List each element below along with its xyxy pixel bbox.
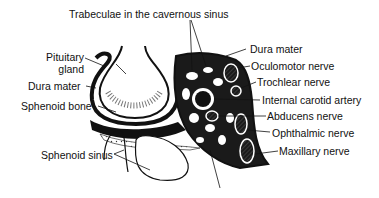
label-trabeculae: Trabeculae in the cavernous sinus — [69, 8, 229, 20]
label-pituitary-2: gland — [20, 63, 84, 75]
maxillary-nerve — [240, 139, 254, 163]
label-carotid-artery: Internal carotid artery — [262, 94, 361, 106]
label-oculomotor-nerve: Oculomotor nerve — [251, 60, 334, 72]
label-maxillary-nerve: Maxillary nerve — [279, 145, 350, 157]
label-trochlear-nerve: Trochlear nerve — [257, 76, 330, 88]
trochlear-nerve — [231, 86, 241, 96]
abducens-nerve — [206, 111, 218, 121]
anatomy-diagram: Trabeculae in the cavernous sinus Pituit… — [0, 0, 379, 198]
label-pituitary-1: Pituitary — [20, 51, 84, 63]
ophthalmic-nerve — [235, 114, 247, 134]
label-sphenoid-sinus: Sphenoid sinus — [41, 149, 113, 161]
label-dura-mater-right: Dura mater — [250, 43, 303, 55]
label-dura-mater-left: Dura mater — [28, 80, 81, 92]
label-ophthalmic-nerve: Ophthalmic nerve — [272, 127, 354, 139]
oculomotor-nerve — [224, 64, 238, 82]
label-sphenoid-bone: Sphenoid bone — [21, 100, 92, 112]
label-abducens-nerve: Abducens nerve — [267, 110, 343, 122]
